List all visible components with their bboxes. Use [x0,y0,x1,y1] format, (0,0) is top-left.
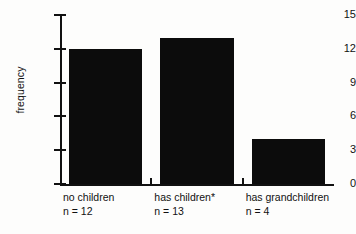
category-label: has grandchildrenn = 4 [246,190,329,218]
category-count: n = 4 [246,204,329,218]
bars-layer [0,0,356,184]
bar-chart: frequency 03691215 no childrenn = 12has … [0,0,356,234]
category-name: has grandchildren [246,190,329,204]
category-name: has children* [154,190,215,204]
category-label: has children*n = 13 [154,190,215,218]
category-count: n = 13 [154,204,215,218]
category-name: no children [63,190,114,204]
bar [69,49,142,184]
category-label: no childrenn = 12 [63,190,114,218]
bar [252,139,325,184]
category-count: n = 12 [63,204,114,218]
bar [160,38,233,184]
x-axis-line [60,184,334,186]
